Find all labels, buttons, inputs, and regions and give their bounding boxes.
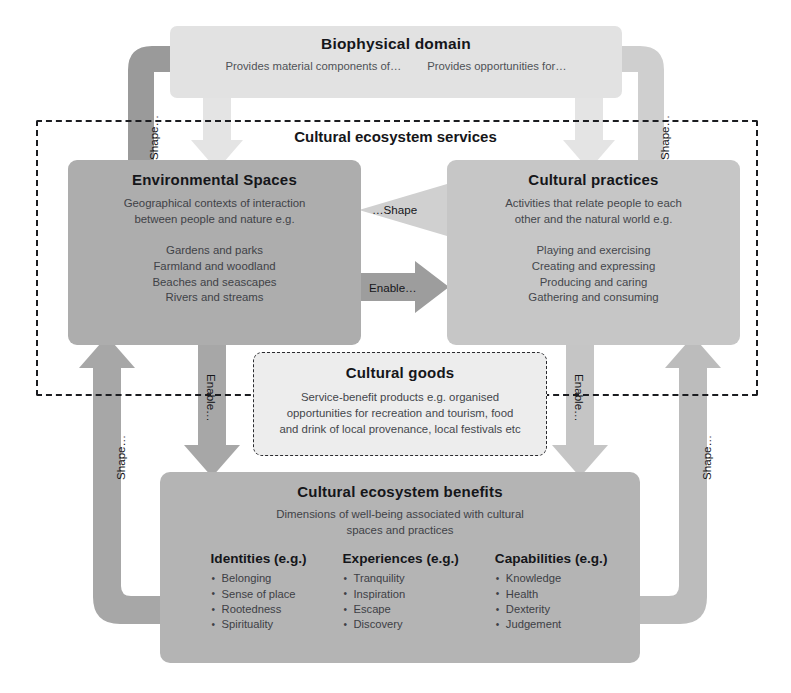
cultural-ecosystem-benefits-description-line-1: Dimensions of well-being associated with… xyxy=(160,507,640,523)
cultural-goods-description-line-1: Service-benefit products e.g. organised xyxy=(264,389,536,405)
list-item: Producing and caring xyxy=(447,275,740,291)
list-item: Rivers and streams xyxy=(68,290,361,306)
list-item: Rootedness xyxy=(211,602,307,617)
cultural-goods-description-line-3: and drink of local provenance, local fes… xyxy=(264,421,536,437)
benefit-column-title: Experiences (e.g.) xyxy=(343,551,459,566)
list-item: Tranquility xyxy=(343,571,459,586)
benefit-item-list: Belonging Sense of place Rootedness Spir… xyxy=(211,571,307,633)
list-item: Health xyxy=(495,587,608,602)
benefit-column-capabilities: Capabilities (e.g.) Knowledge Health Dex… xyxy=(495,551,608,633)
cultural-ecosystem-services-label: Cultural ecosystem services xyxy=(0,128,791,145)
cultural-practices-title: Cultural practices xyxy=(447,160,740,188)
list-item: Beaches and seascapes xyxy=(68,275,361,291)
benefit-item-list: Knowledge Health Dexterity Judgement xyxy=(495,571,608,633)
environmental-spaces-examples: Gardens and parks Farmland and woodland … xyxy=(68,227,361,306)
arrow-label-enable-right: Enable… xyxy=(573,374,586,422)
list-item: Gathering and consuming xyxy=(447,290,740,306)
cultural-ecosystem-benefits-description-line-2: spaces and practices xyxy=(160,523,640,539)
benefit-columns: Identities (e.g.) Belonging Sense of pla… xyxy=(160,538,640,633)
environmental-spaces-description: Geographical contexts of interaction bet… xyxy=(68,188,361,227)
environmental-spaces-description-line-2: between people and nature e.g. xyxy=(68,212,361,228)
cultural-goods-title: Cultural goods xyxy=(254,353,546,381)
provides-opportunities-text: Provides opportunities for… xyxy=(427,60,566,72)
list-item: Farmland and woodland xyxy=(68,259,361,275)
list-item: Playing and exercising xyxy=(447,243,740,259)
benefit-column-identities: Identities (e.g.) Belonging Sense of pla… xyxy=(211,551,307,633)
arrow-label-shape-left-outer: Shape… xyxy=(147,115,160,160)
cultural-ecosystem-benefits-box: Cultural ecosystem benefits Dimensions o… xyxy=(160,472,640,663)
cultural-goods-description-line-2: opportunities for recreation and tourism… xyxy=(264,405,536,421)
arrow-label-shape-right-lower: Shape… xyxy=(700,435,713,480)
cultural-goods-box: Cultural goods Service-benefit products … xyxy=(253,352,547,456)
list-item: Belonging xyxy=(211,571,307,586)
list-item: Creating and expressing xyxy=(447,259,740,275)
cultural-practices-description-line-1: Activities that relate people to each xyxy=(447,196,740,212)
list-item: Escape xyxy=(343,602,459,617)
arrow-label-shape-right-outer: Shape… xyxy=(658,115,671,160)
cultural-practices-description: Activities that relate people to each ot… xyxy=(447,188,740,227)
list-item: Dexterity xyxy=(495,602,608,617)
provides-material-text: Provides material components of… xyxy=(225,60,401,72)
environmental-spaces-title: Environmental Spaces xyxy=(68,160,361,188)
cultural-practices-box: Cultural practices Activities that relat… xyxy=(447,160,740,345)
list-item: Spirituality xyxy=(211,617,307,632)
benefit-column-title: Capabilities (e.g.) xyxy=(495,551,608,566)
list-item: Knowledge xyxy=(495,571,608,586)
arrow-label-enable-middle: Enable… xyxy=(369,281,417,294)
biophysical-domain-box: Biophysical domain Provides material com… xyxy=(170,26,622,98)
benefit-item-list: Tranquility Inspiration Escape Discovery xyxy=(343,571,459,633)
cultural-ecosystem-benefits-title: Cultural ecosystem benefits xyxy=(160,472,640,500)
list-item: Sense of place xyxy=(211,587,307,602)
arrow-label-enable-left: Enable… xyxy=(205,374,218,422)
cultural-ecosystem-benefits-description: Dimensions of well-being associated with… xyxy=(160,500,640,538)
list-item: Discovery xyxy=(343,617,459,632)
environmental-spaces-box: Environmental Spaces Geographical contex… xyxy=(68,160,361,345)
arrow-label-shape-middle: …Shape xyxy=(372,203,417,216)
list-item: Inspiration xyxy=(343,587,459,602)
list-item: Gardens and parks xyxy=(68,243,361,259)
arrow-label-shape-left-lower: Shape… xyxy=(114,435,127,480)
benefit-column-experiences: Experiences (e.g.) Tranquility Inspirati… xyxy=(343,551,459,633)
diagram-canvas: Cultural ecosystem services Biophysical … xyxy=(0,0,791,693)
biophysical-domain-title: Biophysical domain xyxy=(170,26,622,53)
environmental-spaces-description-line-1: Geographical contexts of interaction xyxy=(68,196,361,212)
cultural-goods-description: Service-benefit products e.g. organised … xyxy=(254,381,546,437)
list-item: Judgement xyxy=(495,617,608,632)
cultural-practices-description-line-2: other and the natural world e.g. xyxy=(447,212,740,228)
benefit-column-title: Identities (e.g.) xyxy=(211,551,307,566)
biophysical-domain-subtexts: Provides material components of… Provide… xyxy=(170,53,622,72)
cultural-practices-examples: Playing and exercising Creating and expr… xyxy=(447,227,740,306)
